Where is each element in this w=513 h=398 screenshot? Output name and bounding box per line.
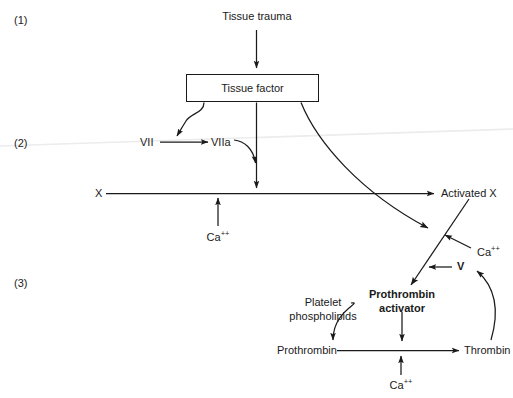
node-thrombin: Thrombin: [464, 344, 510, 357]
node-calcium-prothrombin: Ca++: [390, 379, 413, 392]
coagulation-extrinsic-pathway-diagram: (1) (2) (3) Tissue trauma Tissue factor …: [0, 0, 513, 398]
edge-thrombin-to-v: [477, 271, 495, 340]
node-tissue-factor-box: Tissue factor: [186, 74, 319, 102]
node-factor-vii: VII: [140, 136, 153, 149]
edge-calcium-to-activator-diagonal: [445, 235, 471, 248]
node-factor-v: V: [457, 260, 464, 273]
node-activated-x: Activated X: [441, 187, 497, 200]
node-platelet-phospholipids-line1: Platelet: [305, 296, 342, 309]
node-factor-viia: VIIa: [211, 136, 231, 149]
edge-tissue-factor-to-prothrombin-activator: [301, 103, 428, 229]
diagram-canvas: [0, 0, 513, 398]
stage-label-1: (1): [14, 14, 27, 27]
node-prothrombin-activator-line2: activator: [379, 302, 425, 315]
node-calcium-x: Ca++: [207, 231, 230, 244]
node-prothrombin-activator-line1: Prothrombin: [369, 288, 435, 301]
stage-label-3: (3): [14, 277, 27, 290]
node-tissue-trauma: Tissue trauma: [222, 10, 291, 23]
node-factor-x: X: [95, 187, 102, 200]
edge-tissue-factor-to-vii-viia: [177, 103, 204, 137]
edge-viia-to-x-line: [234, 140, 256, 163]
node-calcium-activator: Ca++: [477, 246, 500, 259]
stage-label-2: (2): [14, 137, 27, 150]
node-platelet-phospholipids-line2: phospholipids: [289, 310, 356, 323]
node-prothrombin: Prothrombin: [277, 344, 337, 357]
node-tissue-factor-label: Tissue factor: [221, 82, 284, 94]
